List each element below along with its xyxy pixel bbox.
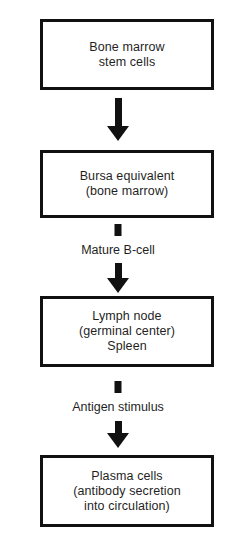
flow-node-label: Bone marrow stem cells — [89, 40, 164, 70]
down-arrow-icon-lymph-to-plasma — [107, 421, 129, 448]
flow-node-label: Bursa equivalent (bone marrow) — [80, 169, 175, 199]
edge-label-mature-b-cell: Mature B-cell — [0, 243, 236, 258]
flow-node-bursa-equivalent: Bursa equivalent (bone marrow) — [40, 150, 214, 218]
arrow-head — [107, 126, 129, 141]
edge-tick-mark-mature-b-cell — [115, 224, 122, 236]
edge-tick-mark-antigen-stimulus — [115, 381, 122, 393]
edge-label-antigen-stimulus: Antigen stimulus — [0, 400, 236, 415]
arrow-shaft — [115, 98, 122, 127]
flow-node-label: Plasma cells (antibody secretion into ci… — [73, 469, 181, 514]
flow-node-plasma-cells: Plasma cells (antibody secretion into ci… — [40, 455, 214, 527]
flow-node-lymph-node-spleen: Lymph node (germinal center) Spleen — [40, 296, 214, 367]
arrow-shaft — [115, 263, 122, 279]
flowchart-canvas: Bone marrow stem cells Bursa equivalent … — [0, 0, 236, 544]
arrow-head — [107, 433, 129, 448]
arrow-head — [107, 278, 129, 293]
down-arrow-icon-stem-to-bursa — [107, 98, 129, 141]
flow-node-bone-marrow-stem-cells: Bone marrow stem cells — [40, 19, 214, 90]
flow-node-label: Lymph node (germinal center) Spleen — [79, 309, 175, 354]
down-arrow-icon-bursa-to-lymph — [107, 263, 129, 293]
